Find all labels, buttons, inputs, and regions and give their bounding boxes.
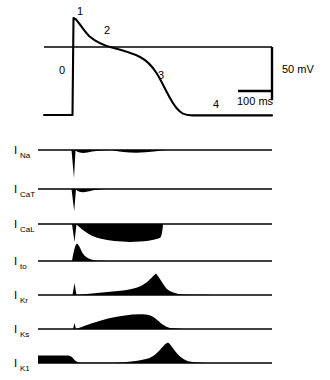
ina-label-main: I [14, 144, 17, 156]
phase-label-2: 2 [104, 24, 110, 36]
phase-label-3: 3 [158, 69, 164, 81]
ito-label-main: I [14, 255, 17, 267]
iks-label-sub: Ks [20, 330, 29, 339]
ikr-label-sub: Kr [20, 296, 28, 305]
cardiac-action-potential-figure: 0 1 2 3 4 50 mV 100 ms I Na I CaT I CaL [0, 0, 330, 380]
ikr-label-main: I [14, 289, 17, 301]
iks-label-main: I [14, 323, 17, 335]
time-scale-label: 100 ms [237, 95, 274, 107]
figure-background [0, 0, 330, 380]
voltage-scale-label: 50 mV [282, 63, 314, 75]
ical-label-main: I [14, 218, 17, 230]
ito-label-sub: to [20, 262, 27, 271]
ical-label-sub: CaL [20, 225, 35, 234]
ik1-label-sub: K1 [20, 364, 30, 373]
phase-label-0: 0 [59, 64, 65, 76]
icat-label-main: I [14, 183, 17, 195]
icat-label-sub: CaT [20, 190, 35, 199]
phase-label-1: 1 [77, 5, 83, 17]
ina-label-sub: Na [20, 151, 31, 160]
ik1-label-main: I [14, 357, 17, 369]
phase-label-4: 4 [213, 98, 219, 110]
